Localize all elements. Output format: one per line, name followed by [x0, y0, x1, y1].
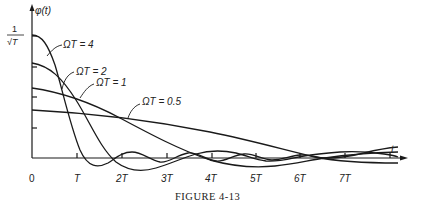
x-tick-1: T	[74, 173, 81, 184]
x-tick-3: 3T	[161, 173, 174, 184]
x-tick-0: 0	[29, 173, 35, 184]
leader-line-1	[80, 84, 94, 98]
label-omega-t-4: ΩT = 4	[63, 39, 94, 50]
figure-chart: ΩT = 4 ΩT = 2 ΩT = 1 ΩT = 0.5 φ(t) 1 √T …	[0, 0, 421, 209]
y-axis-label: φ(t)	[35, 5, 51, 16]
leader-line-2	[62, 72, 74, 89]
y-tick-numerator: 1	[12, 24, 17, 34]
x-tick-5: 5T	[250, 173, 263, 184]
y-axis-arrow-icon	[30, 4, 35, 11]
x-axis-label: t	[391, 144, 395, 155]
x-tick-7: 7T	[339, 173, 352, 184]
x-axis-arrow-icon	[400, 156, 408, 161]
x-tick-4: 4T	[205, 173, 218, 184]
curve-omega-t-2	[32, 63, 398, 170]
curve-omega-t-4	[32, 35, 398, 166]
x-tick-2: 2T	[115, 173, 129, 184]
leader-line-0-5	[128, 104, 140, 118]
label-omega-t-1: ΩT = 1	[96, 77, 127, 88]
figure-caption: FIGURE 4-13	[175, 191, 240, 202]
x-tick-6: 6T	[294, 173, 307, 184]
label-omega-t-2: ΩT = 2	[76, 66, 107, 77]
curve-omega-t-1	[32, 88, 398, 167]
y-tick-denominator: √T	[7, 37, 19, 47]
label-omega-t-0-5: ΩT = 0.5	[142, 96, 181, 107]
